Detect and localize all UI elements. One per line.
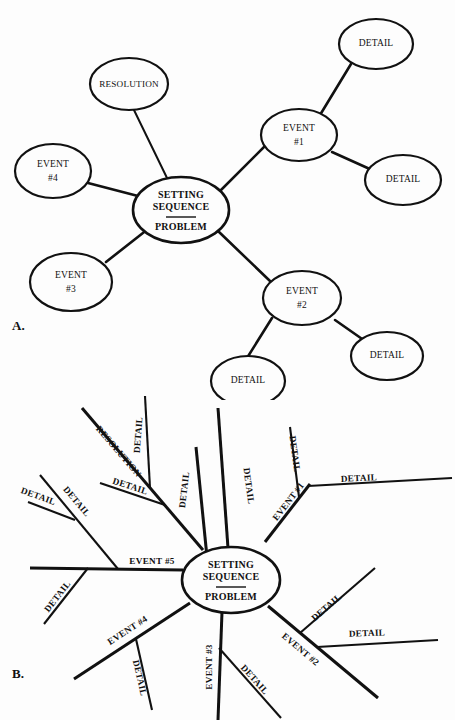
label-event-4: EVENT #4 <box>106 614 150 647</box>
spoke-event-4 <box>74 603 190 679</box>
node-resolution[interactable]: RESOLUTION <box>90 58 168 110</box>
node-event-2[interactable]: EVENT #2 <box>263 271 341 325</box>
label-event-5: EVENT #5 <box>129 556 174 566</box>
node-event-1-label-line1: EVENT <box>283 123 315 133</box>
label-event-4-detail: DETAIL <box>131 659 149 697</box>
node-resolution-label: RESOLUTION <box>99 79 159 89</box>
label-event-2-detail-up: DETAIL <box>309 592 343 623</box>
edge-center-event3 <box>106 229 148 262</box>
node-center-b-problem: PROBLEM <box>205 591 257 602</box>
node-detail-event2-left-label: DETAIL <box>231 375 266 385</box>
node-event-2-label-line1: EVENT <box>286 286 318 296</box>
node-event-3[interactable]: EVENT #3 <box>30 253 112 311</box>
node-detail-event1-top[interactable]: DETAIL <box>339 19 413 69</box>
node-event-4-label-line2: #4 <box>48 173 58 183</box>
node-center-b-sequence: SEQUENCE <box>203 571 260 582</box>
node-event-4-shape <box>15 144 91 198</box>
label-event-1-detail-top: DETAIL <box>287 435 302 472</box>
node-event-3-label-line1: EVENT <box>55 270 87 280</box>
spoke-event-2 <box>268 606 378 698</box>
edge-center-resolution <box>133 108 168 180</box>
node-center-b-setting: SETTING <box>208 559 254 570</box>
node-event-2-shape <box>263 271 341 325</box>
node-event-1-shape <box>261 109 337 161</box>
diagram-a-canvas: RESOLUTION EVENT #4 EVENT #3 EVENT #1 DE… <box>0 0 455 400</box>
edge-center-event4 <box>88 183 138 196</box>
edge-center-event2 <box>218 231 270 281</box>
node-event-2-label-line2: #2 <box>297 300 307 310</box>
spoke-resolution-detail-2 <box>145 396 150 488</box>
label-event-3-detail: DETAIL <box>239 663 271 697</box>
panel-letter-a: A. <box>12 318 25 333</box>
node-center-a-setting: SETTING <box>158 189 204 200</box>
spoke-event-2-detail-2 <box>317 640 438 647</box>
spoke-event-1-detail-2 <box>308 478 452 486</box>
label-upper-detail: DETAIL <box>177 471 191 508</box>
spoke-event-5 <box>30 568 183 570</box>
edge-center-event1 <box>218 144 267 193</box>
label-resolution-detail-2: DETAIL <box>132 416 145 453</box>
node-event-1[interactable]: EVENT #1 <box>261 109 337 161</box>
edge-event1-detail-top <box>320 64 351 115</box>
node-event-3-label-line2: #3 <box>66 284 76 294</box>
node-event-3-shape <box>30 253 112 311</box>
edge-event1-detail-right <box>332 152 372 170</box>
label-top-detail: DETAIL <box>241 467 256 504</box>
node-detail-event1-right-label: DETAIL <box>386 174 421 184</box>
node-event-4-label-line1: EVENT <box>37 159 69 169</box>
label-event-1: EVENT #1 <box>270 480 306 522</box>
node-center-a-sequence: SEQUENCE <box>153 201 210 212</box>
label-event-5-detail-upper: DETAIL <box>61 484 92 518</box>
node-center-b[interactable]: SETTING SEQUENCE PROBLEM <box>182 547 280 613</box>
spoke-top-detail-main <box>218 408 228 548</box>
node-event-4[interactable]: EVENT #4 <box>15 144 91 198</box>
diagram-b-canvas: SETTING SEQUENCE PROBLEM RESOLUTION DETA… <box>0 390 455 720</box>
label-event-2: EVENT #2 <box>280 631 321 668</box>
node-center-a[interactable]: SETTING SEQUENCE PROBLEM <box>133 177 229 243</box>
node-center-a-problem: PROBLEM <box>155 221 207 232</box>
spoke-event-3 <box>218 612 222 720</box>
spoke-event-5-detail-1 <box>40 475 118 569</box>
label-event-2-detail-right: DETAIL <box>349 627 386 638</box>
node-detail-event1-top-label: DETAIL <box>359 38 394 48</box>
node-detail-event2-right[interactable]: DETAIL <box>351 332 423 380</box>
node-detail-event1-right[interactable]: DETAIL <box>365 155 441 205</box>
node-detail-event2-right-label: DETAIL <box>370 350 405 360</box>
edge-event2-detail-right <box>335 320 365 341</box>
diagram-page: RESOLUTION EVENT #4 EVENT #3 EVENT #1 DE… <box>0 0 455 720</box>
spoke-upper-detail-main <box>196 447 207 557</box>
panel-letter-b: B. <box>12 666 24 681</box>
node-event-1-label-line2: #1 <box>294 137 304 147</box>
spoke-event-3-detail-1 <box>219 648 281 718</box>
label-event-3: EVENT #3 <box>204 644 214 689</box>
edge-event2-detail-left <box>247 318 272 358</box>
label-event-1-detail-right: DETAIL <box>341 472 378 484</box>
